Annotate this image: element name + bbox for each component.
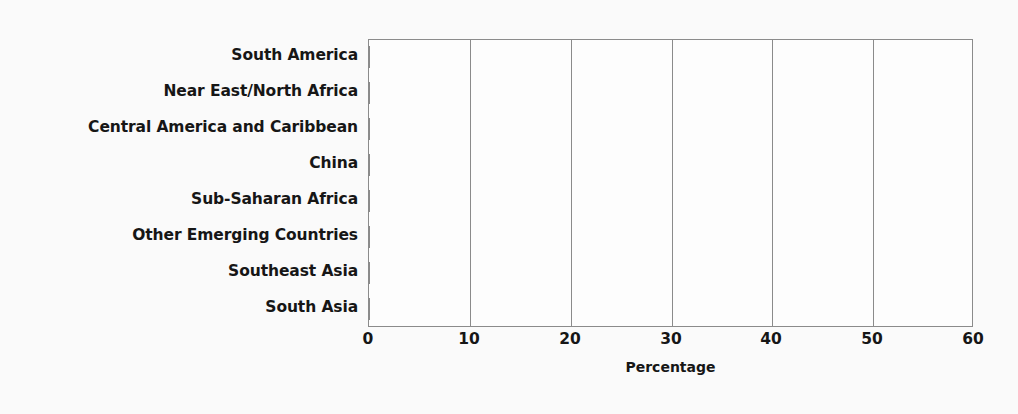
bar-south-america (369, 46, 370, 68)
bar-near-east-north-africa (369, 82, 370, 104)
x-axis-tick-labels: 0102030405060 (368, 332, 973, 356)
x-tick-label: 20 (559, 332, 581, 348)
horizontal-bar-chart: South AmericaNear East/North AfricaCentr… (0, 0, 1018, 414)
gridline-40 (772, 40, 773, 326)
x-axis-title: Percentage (368, 360, 973, 374)
category-label: Sub-Saharan Africa (0, 192, 358, 208)
bar-row (369, 298, 951, 320)
bar-southeast-asia (369, 262, 370, 284)
category-label: Other Emerging Countries (0, 228, 358, 244)
x-tick-label: 40 (760, 332, 782, 348)
x-tick-label: 30 (660, 332, 682, 348)
category-label: Central America and Caribbean (0, 120, 358, 136)
x-tick-label: 10 (458, 332, 480, 348)
x-tick-label: 50 (861, 332, 883, 348)
gridline-50 (873, 40, 874, 326)
bar-row (369, 262, 753, 284)
bar-row (369, 154, 586, 176)
category-label: South America (0, 48, 358, 64)
category-label: Southeast Asia (0, 264, 358, 280)
x-tick-label: 0 (363, 332, 374, 348)
bar-row (369, 190, 685, 212)
bar-central-america-and-caribbean (369, 118, 370, 140)
bar-row (369, 82, 505, 104)
bar-china (369, 154, 370, 176)
bar-other-emerging-countries (369, 226, 370, 248)
category-label: China (0, 156, 358, 172)
category-axis: South AmericaNear East/North AfricaCentr… (0, 39, 358, 327)
bar-row (369, 46, 454, 68)
category-label: South Asia (0, 300, 358, 316)
bar-row (369, 118, 528, 140)
bar-sub-saharan-africa (369, 190, 370, 212)
category-label: Near East/North Africa (0, 84, 358, 100)
plot-area (368, 39, 973, 327)
bar-south-asia (369, 298, 370, 320)
x-tick-label: 60 (962, 332, 984, 348)
bar-row (369, 226, 721, 248)
